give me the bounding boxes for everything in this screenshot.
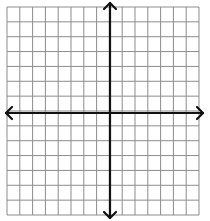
grid-lines [7, 7, 199, 215]
coordinate-plane [0, 0, 210, 221]
